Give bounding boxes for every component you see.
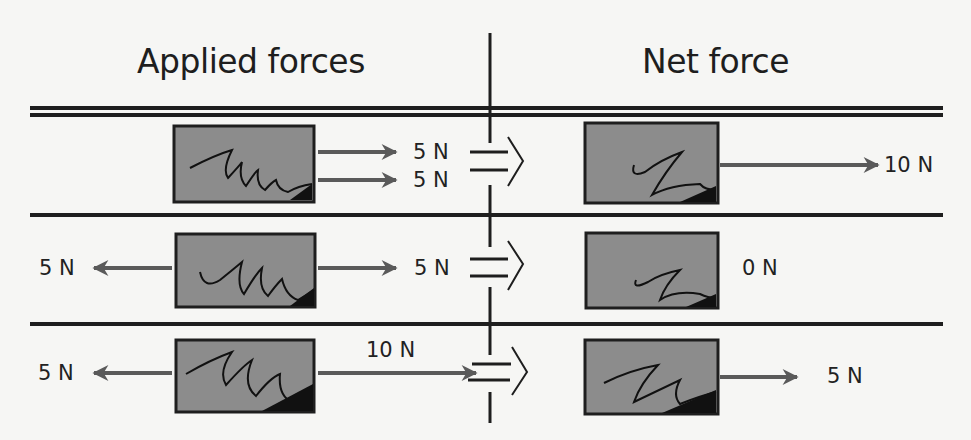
- net-force-label: 10 N: [884, 155, 933, 176]
- force-label: 5 N: [39, 258, 75, 279]
- force-label: 10 N: [366, 340, 415, 361]
- row-1: [174, 123, 878, 203]
- row-2: [94, 233, 718, 308]
- force-label: 5 N: [413, 142, 449, 163]
- applied-block: [174, 126, 314, 202]
- net-block: [585, 123, 718, 203]
- applied-block: [176, 234, 315, 307]
- row-separators: [30, 106, 943, 326]
- heading-net-force: Net force: [642, 45, 789, 78]
- applied-block: [176, 340, 314, 412]
- equals-implies-icon: [470, 137, 523, 186]
- heading-applied-forces: Applied forces: [137, 45, 365, 78]
- row-3: [94, 340, 797, 414]
- equals-implies-icon: [468, 347, 527, 395]
- force-label: 5 N: [38, 363, 74, 384]
- force-label: 5 N: [414, 258, 450, 279]
- net-block: [585, 340, 718, 414]
- net-block: [586, 233, 718, 308]
- equals-implies-icon: [470, 241, 523, 290]
- net-force-label: 5 N: [827, 366, 863, 387]
- net-force-label: 0 N: [742, 258, 778, 279]
- force-label: 5 N: [413, 170, 449, 191]
